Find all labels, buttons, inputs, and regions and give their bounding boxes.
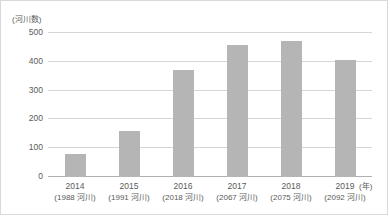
- y-tick-label-500: 500: [29, 27, 43, 37]
- x-tick-label-2014: 2014: [48, 180, 102, 192]
- bar-slot-2017: [210, 33, 264, 177]
- x-label-slot-2017: 2017(2067 河川): [210, 180, 264, 204]
- bar-slot-2015: [102, 33, 156, 177]
- y-tick-label-300: 300: [29, 85, 43, 95]
- bar-2015[interactable]: [119, 131, 140, 177]
- bar-2017[interactable]: [227, 45, 248, 177]
- y-tick-label-100: 100: [29, 142, 43, 152]
- chart-container: (河川数) 0100200300400500 2014(1988 河川)2015…: [0, 0, 388, 215]
- x-label-slot-2016: 2016(2018 河川): [156, 180, 210, 204]
- y-tick-label-200: 200: [29, 113, 43, 123]
- x-label-slot-2018: 2018(2075 河川): [264, 180, 318, 204]
- bar-slot-2016: [156, 33, 210, 177]
- x-tick-sublabel-2014: (1988 河川): [48, 192, 102, 204]
- y-axis-unit-label: (河川数): [12, 13, 41, 24]
- x-tick-sublabel-2017: (2067 河川): [210, 192, 264, 204]
- x-axis-unit-label: (年): [359, 180, 372, 191]
- x-tick-sublabel-2016: (2018 河川): [156, 192, 210, 204]
- x-tick-sublabel-2015: (1991 河川): [102, 192, 156, 204]
- x-tick-sublabel-2019: (2092 河川): [318, 192, 372, 204]
- bars-group: [48, 33, 372, 177]
- bar-slot-2014: [48, 33, 102, 177]
- bar-2018[interactable]: [281, 41, 302, 177]
- y-tick-label-400: 400: [29, 56, 43, 66]
- x-tick-sublabel-2018: (2075 河川): [264, 192, 318, 204]
- y-tick-label-0: 0: [38, 171, 43, 181]
- x-label-slot-2014: 2014(1988 河川): [48, 180, 102, 204]
- bar-2016[interactable]: [173, 70, 194, 177]
- bar-2019[interactable]: [335, 60, 356, 177]
- x-tick-label-2018: 2018: [264, 180, 318, 192]
- bar-2014[interactable]: [65, 154, 86, 177]
- x-axis-labels: 2014(1988 河川)2015(1991 河川)2016(2018 河川)2…: [48, 180, 372, 204]
- x-tick-label-2017: 2017: [210, 180, 264, 192]
- bar-slot-2018: [264, 33, 318, 177]
- bar-slot-2019: [318, 33, 372, 177]
- plot-area: 0100200300400500: [48, 33, 372, 177]
- x-label-slot-2015: 2015(1991 河川): [102, 180, 156, 204]
- x-tick-label-2015: 2015: [102, 180, 156, 192]
- x-tick-label-2016: 2016: [156, 180, 210, 192]
